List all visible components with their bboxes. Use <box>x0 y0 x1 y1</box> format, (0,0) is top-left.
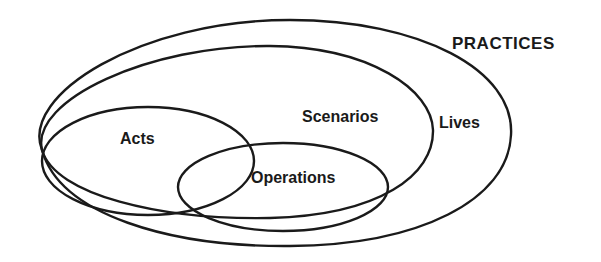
label-operations: Operations <box>251 169 335 187</box>
label-practices: PRACTICES <box>452 34 555 54</box>
acts-ellipse <box>42 107 254 215</box>
label-acts: Acts <box>120 130 155 148</box>
label-lives: Lives <box>439 114 480 132</box>
label-scenarios: Scenarios <box>302 108 378 126</box>
